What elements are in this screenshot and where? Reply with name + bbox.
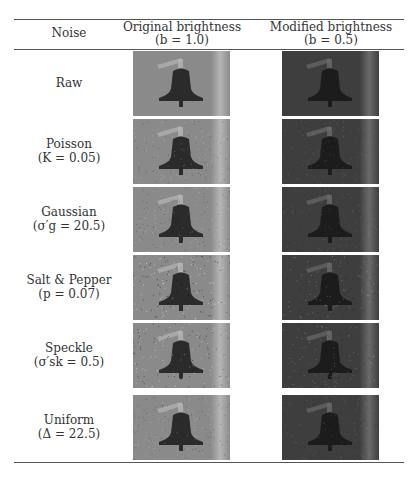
original-brightness-image [133, 187, 230, 252]
modified-brightness-image [282, 51, 379, 116]
noise-label: Speckle(σ′sk = 0.5) [14, 341, 124, 369]
modified-brightness-image [282, 255, 379, 320]
original-brightness-image [133, 119, 230, 184]
bottom-rule [14, 462, 404, 463]
header-modified-param: (b = 0.5) [268, 34, 394, 47]
header-original: Original brightness (b = 1.0) [122, 21, 242, 47]
noise-name: Salt & Pepper [14, 273, 124, 287]
noise-param: (K = 0.05) [14, 151, 124, 165]
header-noise: Noise [14, 27, 124, 40]
noise-name: Uniform [14, 413, 124, 427]
noise-label: Gaussian(σ′g = 20.5) [14, 205, 124, 233]
modified-brightness-image [282, 395, 379, 460]
noise-param: (σ′g = 20.5) [14, 219, 124, 233]
noise-label: Uniform(Δ = 22.5) [14, 413, 124, 441]
header-rule [14, 49, 404, 50]
noise-param: (Δ = 22.5) [14, 427, 124, 441]
noise-name: Raw [14, 76, 124, 90]
noise-param: (σ′sk = 0.5) [14, 355, 124, 369]
original-brightness-image [133, 395, 230, 460]
modified-brightness-image [282, 323, 379, 388]
modified-brightness-image [282, 187, 379, 252]
noise-label: Raw [14, 76, 124, 90]
noise-label: Poisson(K = 0.05) [14, 137, 124, 165]
noise-label: Salt & Pepper(p = 0.07) [14, 273, 124, 301]
noise-name: Speckle [14, 341, 124, 355]
modified-brightness-image [282, 119, 379, 184]
original-brightness-image [133, 255, 230, 320]
header-original-param: (b = 1.0) [122, 34, 242, 47]
noise-name: Gaussian [14, 205, 124, 219]
noise-name: Poisson [14, 137, 124, 151]
noise-param: (p = 0.07) [14, 287, 124, 301]
original-brightness-image [133, 51, 230, 116]
header-modified: Modified brightness (b = 0.5) [268, 21, 394, 47]
original-brightness-image [133, 323, 230, 388]
